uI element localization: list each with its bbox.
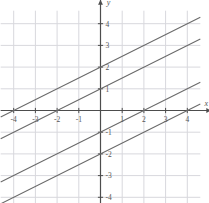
x-tick-label: -3	[32, 115, 38, 124]
axis-name-labels: xy	[106, 0, 209, 107]
x-tick-label: 2	[142, 115, 146, 124]
y-axis-label: y	[106, 0, 111, 7]
x-axis-label: x	[204, 99, 209, 108]
x-axis-arrowhead	[206, 108, 209, 113]
x-tick-label: -2	[54, 115, 60, 124]
y-tick-label: -2	[106, 150, 112, 159]
y-tick-label: 3	[106, 41, 110, 50]
graph-canvas: -4-3-2-112344321-1-2-3-4 xy	[0, 0, 209, 203]
y-tick-label: 1	[106, 85, 110, 94]
x-tick-label: 4	[185, 115, 189, 124]
y-tick-label: 4	[106, 20, 110, 29]
y-tick-label: -3	[106, 171, 112, 180]
x-tick-label: -1	[76, 115, 82, 124]
y-tick-label: 2	[106, 63, 110, 72]
y-tick-label: -4	[106, 193, 112, 202]
y-tick-label: -1	[106, 128, 112, 137]
x-tick-label: 3	[164, 115, 168, 124]
y-axis-arrowhead	[98, 0, 103, 5]
coordinate-plane-figure: -4-3-2-112344321-1-2-3-4 xy	[0, 0, 209, 203]
x-tick-label: -4	[11, 115, 17, 124]
x-tick-label: 1	[120, 115, 124, 124]
